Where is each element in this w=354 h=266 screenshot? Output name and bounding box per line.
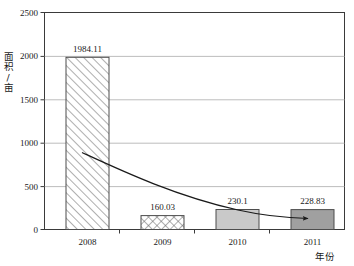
x-tick-label-2011: 2011 [304, 238, 322, 247]
x-axis-title: 年份 [315, 252, 335, 262]
chart-canvas [0, 0, 354, 266]
y-tick-label-2000: 2000 [12, 52, 38, 61]
data-label-2009: 160.03 [150, 203, 175, 212]
y-tick-label-1500: 1500 [12, 95, 38, 104]
y-axis-ticks [41, 13, 45, 230]
chart-container: 面积/亩 2500 2000 1500 1000 500 0 2008 2009… [0, 0, 354, 266]
bar-2009 [141, 216, 184, 230]
data-label-2011: 228.83 [300, 197, 325, 206]
bar-2008 [66, 57, 109, 229]
y-tick-label-2500: 2500 [12, 8, 38, 17]
data-label-2008: 1984.11 [73, 45, 102, 54]
y-tick-label-1000: 1000 [12, 139, 38, 148]
x-tick-label-2008: 2008 [79, 238, 97, 247]
x-tick-label-2010: 2010 [229, 238, 247, 247]
x-axis-ticks [120, 230, 270, 234]
data-label-2010: 230.1 [227, 197, 247, 206]
y-tick-label-0: 0 [12, 225, 38, 234]
y-tick-label-500: 500 [12, 182, 38, 191]
x-tick-label-2009: 2009 [154, 238, 172, 247]
bar-2011 [291, 210, 334, 230]
